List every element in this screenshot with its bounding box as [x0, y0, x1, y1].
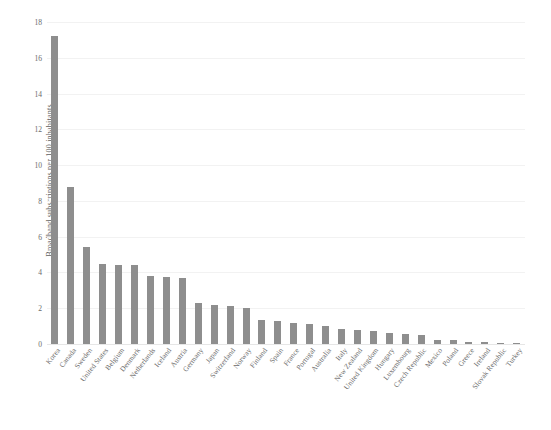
- bar: [418, 335, 425, 344]
- bar-slot: [206, 22, 222, 344]
- bar-slot: [350, 22, 366, 344]
- x-axis-label-slot: Japan: [206, 344, 222, 428]
- bar-slot: [509, 22, 525, 344]
- bar-slot: [445, 22, 461, 344]
- bar-slot: [270, 22, 286, 344]
- x-axis-label-slot: Czech Republic: [413, 344, 429, 428]
- chart-figure: Broadband subscriptions per 100 inhabita…: [0, 0, 551, 430]
- bar-slot: [254, 22, 270, 344]
- bar: [147, 276, 154, 344]
- bar: [290, 323, 297, 344]
- bar: [83, 247, 90, 344]
- x-axis-label-slot: Switzerland: [222, 344, 238, 428]
- bar-slot: [190, 22, 206, 344]
- y-axis-tick-label: 8: [38, 196, 42, 205]
- bar: [258, 320, 265, 344]
- bar: [227, 306, 234, 344]
- bar: [274, 321, 281, 344]
- bar: [354, 330, 361, 344]
- x-axis-label-slot: Mexico: [429, 344, 445, 428]
- bar-slot: [127, 22, 143, 344]
- bar-slot: [397, 22, 413, 344]
- x-axis-label-slot: United States: [95, 344, 111, 428]
- bar: [402, 334, 409, 344]
- bar-slot: [174, 22, 190, 344]
- bar-slot: [63, 22, 79, 344]
- x-axis-label-slot: France: [286, 344, 302, 428]
- bar-slot: [461, 22, 477, 344]
- bar-slot: [381, 22, 397, 344]
- bar-slot: [238, 22, 254, 344]
- bar-slot: [413, 22, 429, 344]
- bar-slot: [158, 22, 174, 344]
- x-axis-label-slot: Sweden: [79, 344, 95, 428]
- bar: [51, 36, 58, 344]
- x-axis-label-slot: Canada: [63, 344, 79, 428]
- bar-series: [47, 22, 525, 344]
- bar: [67, 187, 74, 344]
- bar-slot: [493, 22, 509, 344]
- x-axis-label-slot: Belgium: [111, 344, 127, 428]
- bar: [370, 331, 377, 344]
- bar: [195, 303, 202, 344]
- bar-slot: [47, 22, 63, 344]
- bar: [179, 278, 186, 344]
- y-axis-tick-label: 4: [38, 268, 42, 277]
- y-axis-tick-label: 18: [34, 18, 42, 27]
- bar: [243, 308, 250, 344]
- bar-slot: [95, 22, 111, 344]
- y-axis-tick-label: 2: [38, 304, 42, 313]
- bar: [99, 264, 106, 345]
- x-axis-label-slot: Austria: [174, 344, 190, 428]
- bar-slot: [318, 22, 334, 344]
- x-axis-label-slot: Portugal: [302, 344, 318, 428]
- bar-slot: [143, 22, 159, 344]
- x-axis-tick-labels: KoreaCanadaSwedenUnited StatesBelgiumDen…: [47, 344, 525, 428]
- x-axis-label-slot: Spain: [270, 344, 286, 428]
- bar-slot: [429, 22, 445, 344]
- y-axis-tick-label: 16: [34, 53, 42, 62]
- y-axis-tick-label: 6: [38, 232, 42, 241]
- bar-slot: [334, 22, 350, 344]
- bar: [131, 265, 138, 344]
- x-axis-label-slot: Finland: [254, 344, 270, 428]
- bar: [322, 326, 329, 344]
- bar: [386, 333, 393, 344]
- x-axis-label-slot: Norway: [238, 344, 254, 428]
- bar-slot: [286, 22, 302, 344]
- bar: [163, 277, 170, 344]
- x-axis-label-slot: Poland: [445, 344, 461, 428]
- x-axis-label-slot: Turkey: [509, 344, 525, 428]
- plot-area: 024681012141618: [47, 22, 525, 344]
- bar: [115, 265, 122, 344]
- bar: [306, 324, 313, 344]
- bar-slot: [365, 22, 381, 344]
- y-axis-tick-label: 14: [34, 89, 42, 98]
- x-axis-label-slot: Germany: [190, 344, 206, 428]
- x-axis-label-slot: Australia: [318, 344, 334, 428]
- bar: [338, 329, 345, 344]
- bar-slot: [111, 22, 127, 344]
- bar: [211, 305, 218, 344]
- bar-slot: [302, 22, 318, 344]
- x-axis-label-slot: Slovak Republic: [493, 344, 509, 428]
- bar-slot: [222, 22, 238, 344]
- x-axis-label-slot: Korea: [47, 344, 63, 428]
- y-axis-tick-label: 12: [34, 125, 42, 134]
- bar-slot: [79, 22, 95, 344]
- y-axis-tick-label: 10: [34, 161, 42, 170]
- bar-slot: [477, 22, 493, 344]
- y-axis-tick-label: 0: [38, 340, 42, 349]
